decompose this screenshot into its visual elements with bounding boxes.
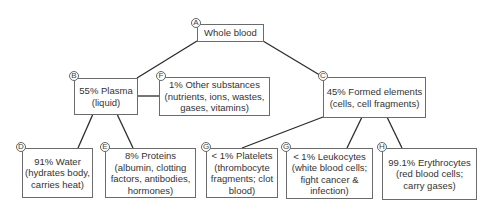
node-other-substances: 1% Other substances (nutrients, ions, wa… [159, 77, 270, 116]
node-text: infection) [310, 185, 349, 197]
badge-d: D [16, 142, 26, 152]
node-erythrocytes: 99.1% Erythrocytes (red blood cells; car… [382, 148, 477, 200]
node-text: (albumin, clotting [115, 162, 187, 174]
node-text: carries heat) [31, 179, 84, 191]
node-text: (thrombocyte [214, 162, 269, 174]
badge-g-leukocytes: G [281, 142, 291, 152]
node-text: (red blood cells; [396, 168, 463, 180]
node-text: 99.1% Erythrocytes [388, 157, 470, 169]
node-proteins: 8% Proteins (albumin, clotting factors, … [105, 148, 196, 198]
node-text: (cells, cell fragments) [330, 98, 420, 110]
node-whole-blood: Whole blood [197, 24, 264, 42]
node-platelets: < 1% Platelets (thrombocyte fragments; c… [206, 148, 278, 198]
badge-b: B [69, 71, 79, 81]
node-formed-elements: 45% Formed elements (cells, cell fragmen… [323, 77, 426, 118]
node-text: carry gases) [403, 180, 455, 192]
badge-g-platelets: G [201, 142, 211, 152]
node-text: hormones) [128, 185, 173, 197]
edge-c-h [387, 117, 402, 148]
node-text: blood) [229, 185, 255, 197]
badge-e: E [100, 142, 110, 152]
node-leukocytes: < 1% Leukocytes (white blood cells; figh… [286, 148, 373, 199]
edge-a-b [137, 41, 197, 78]
node-text: (white blood cells; [292, 162, 368, 174]
node-text: fragments; clot [211, 173, 273, 185]
node-text: (nutrients, ions, wastes, [165, 91, 265, 103]
edge-b-d [78, 114, 93, 148]
node-text: 45% Formed elements [327, 86, 423, 98]
blood-composition-diagram: Whole blood A 55% Plasma (liquid) B 1% O… [0, 0, 492, 210]
node-water: 91% Water (hydrates body, carries heat) [22, 148, 93, 198]
node-text: Whole blood [204, 27, 257, 39]
node-text: (hydrates body, [25, 167, 90, 179]
node-text: 91% Water [34, 156, 81, 168]
node-plasma: 55% Plasma (liquid) [74, 78, 138, 115]
node-text: 1% Other substances [169, 79, 260, 91]
badge-a: A [191, 18, 201, 28]
node-text: 55% Plasma [79, 85, 132, 97]
edge-b-e [117, 114, 133, 148]
node-text: < 1% Leukocytes [293, 151, 366, 163]
node-text: (liquid) [92, 97, 121, 109]
node-text: gases, vitamins) [180, 102, 249, 114]
node-text: < 1% Platelets [212, 150, 273, 162]
edge-a-c [263, 41, 323, 77]
badge-c: C [318, 71, 328, 81]
node-text: fight cancer & [300, 174, 358, 186]
badge-f: F [156, 71, 166, 81]
edge-c-g2 [347, 117, 362, 148]
node-text: factors, antibodies, [111, 173, 191, 185]
node-text: 8% Proteins [125, 150, 176, 162]
badge-h: H [377, 142, 387, 152]
